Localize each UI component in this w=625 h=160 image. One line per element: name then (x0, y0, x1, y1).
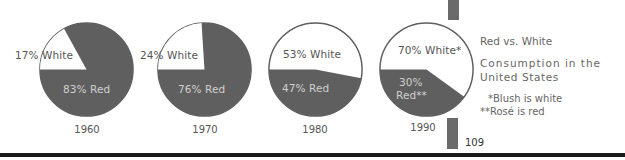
pie-1980-graphic (267, 21, 364, 118)
label-1980-red: 47% Red (282, 82, 329, 94)
bottom-rule (0, 153, 625, 157)
pie-1970-graphic (156, 21, 253, 118)
chart-subtitle-line1: Consumption in the (480, 57, 601, 69)
footnote-blush: *Blush is white (488, 93, 562, 104)
year-1980: 1980 (285, 124, 345, 135)
chart-title: Red vs. White (480, 35, 552, 47)
pie-1980 (267, 21, 364, 118)
year-1990: 1990 (393, 122, 453, 133)
bottom-marker-bar (447, 118, 458, 149)
chart-subtitle-line2: United States (480, 71, 559, 83)
label-1990-white: 70% White* (398, 44, 461, 56)
label-1990-red-pct: 30% (399, 76, 423, 88)
footnote-rose: **Rosé is red (480, 106, 545, 117)
pie-1990-graphic (378, 21, 475, 118)
pie-1970 (156, 21, 253, 118)
label-1970-red: 76% Red (178, 83, 225, 95)
year-1970: 1970 (175, 124, 235, 135)
page-number: 109 (465, 137, 484, 148)
year-1960: 1960 (57, 124, 117, 135)
label-1990-red: Red** (396, 89, 427, 101)
top-marker-bar (448, 0, 459, 20)
label-1970-white: 24% White (140, 49, 198, 61)
label-1960-red: 83% Red (63, 83, 110, 95)
pie-1960 (38, 21, 135, 118)
label-1960-white: 17% White (15, 49, 73, 61)
pie-1960-graphic (38, 21, 135, 118)
pie-1990 (378, 21, 475, 118)
label-1980-white: 53% White (283, 48, 341, 60)
